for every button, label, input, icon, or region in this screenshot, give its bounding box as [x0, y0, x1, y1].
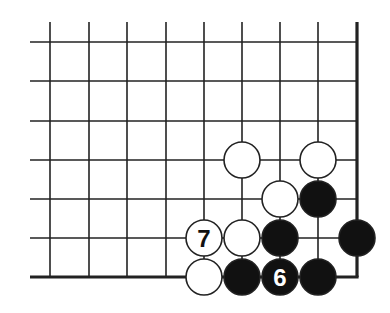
white-stone-7: 7 — [186, 220, 222, 256]
move-number-label: 7 — [197, 225, 210, 252]
black-stone — [262, 220, 298, 256]
white-stone — [224, 220, 260, 256]
black-stone-6: 6 — [262, 259, 298, 295]
black-stone — [300, 259, 336, 295]
black-stone — [224, 259, 260, 295]
white-stone — [262, 181, 298, 217]
black-stone — [300, 181, 336, 217]
white-stone — [186, 259, 222, 295]
move-number-label: 6 — [273, 264, 286, 291]
white-stone — [224, 142, 260, 178]
white-stone — [300, 142, 336, 178]
black-stone — [339, 220, 375, 256]
go-board-diagram: 76 — [0, 0, 390, 313]
